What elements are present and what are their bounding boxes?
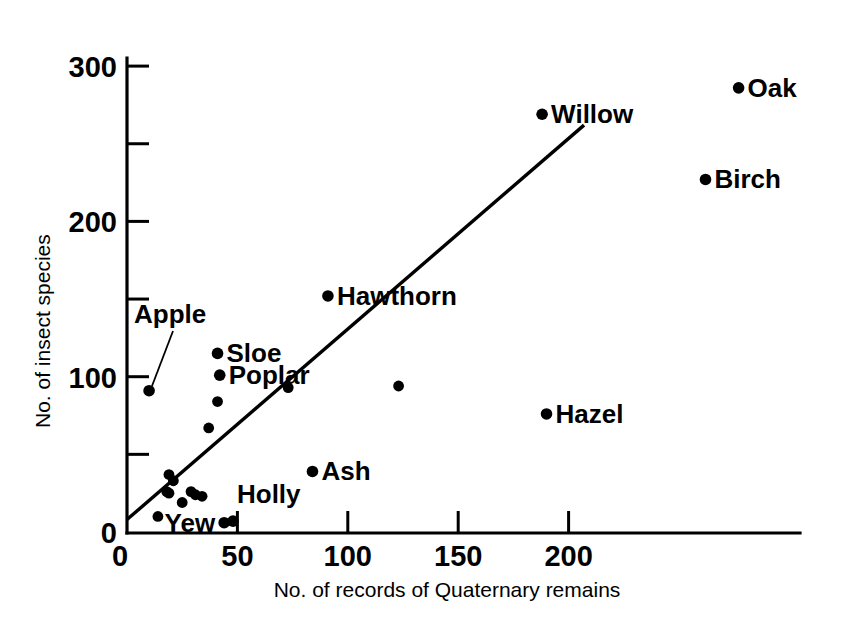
point-label-ash: Ash [321, 456, 370, 486]
axes-group [127, 58, 800, 533]
point-label-hawthorn: Hawthorn [337, 281, 457, 311]
data-point [168, 475, 179, 486]
data-point-poplar [214, 369, 226, 381]
data-point-birch [700, 174, 712, 186]
point-label-hazel: Hazel [556, 399, 624, 429]
chart-figure: 0100200300 050100150200 AppleSloePoplarH… [0, 0, 856, 630]
data-point-oak [733, 82, 745, 94]
y-tick-label-300: 300 [69, 51, 117, 83]
y-tick-label-100: 100 [69, 362, 117, 394]
data-point [283, 382, 294, 393]
point-label-apple: Apple [134, 299, 206, 329]
data-point-willow [536, 108, 548, 120]
y-tick-label-200: 200 [69, 206, 117, 238]
data-point-holly [227, 515, 239, 527]
data-point-hazel [541, 408, 553, 420]
x-tick-label-200: 200 [544, 540, 592, 572]
point-label-holly: Holly [237, 479, 301, 509]
data-point-ash [307, 466, 319, 478]
data-point [153, 511, 164, 522]
point-label-willow: Willow [551, 99, 634, 129]
x-tick-label-100: 100 [324, 540, 372, 572]
y-axis-title: No. of insect species [31, 234, 54, 428]
point-label-poplar: Poplar [229, 360, 310, 390]
y-axis-tick-labels: 0100200300 [69, 51, 117, 549]
x-tick-label-0: 0 [112, 540, 128, 572]
y-axis-ticks [127, 66, 149, 454]
data-points-group: AppleSloePoplarHawthornHazelAshWillowOak… [134, 73, 797, 538]
x-axis-title: No. of records of Quaternary remains [274, 578, 621, 601]
apple-leader-line [152, 331, 173, 386]
data-point [393, 381, 404, 392]
scatter-plot: 0100200300 050100150200 AppleSloePoplarH… [0, 0, 856, 630]
x-axis-tick-labels: 050100150200 [112, 540, 593, 572]
data-point [177, 497, 188, 508]
data-point-apple [143, 385, 155, 397]
data-point-hawthorn [322, 290, 334, 302]
x-axis-ticks [237, 511, 568, 533]
x-tick-label-50: 50 [221, 540, 253, 572]
point-label-birch: Birch [714, 164, 780, 194]
x-tick-label-150: 150 [434, 540, 482, 572]
point-label-yew: Yew [165, 508, 216, 538]
point-label-oak: Oak [748, 73, 798, 103]
data-point [197, 491, 208, 502]
data-point [212, 396, 223, 407]
data-point [164, 488, 175, 499]
data-point [203, 423, 214, 434]
data-point-sloe [212, 348, 224, 360]
